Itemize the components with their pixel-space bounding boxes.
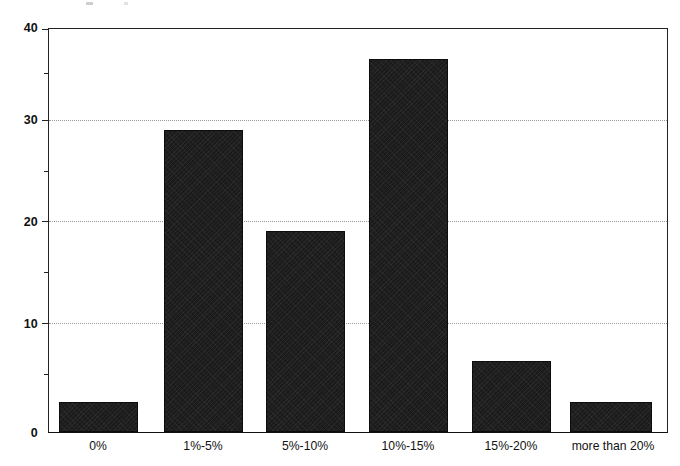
y-axis-tick-label: 0 — [0, 427, 38, 440]
bar-3 — [369, 59, 448, 432]
y-axis-tick-label: 10 — [0, 318, 38, 331]
x-axis-tick-label-1: 1%-5% — [183, 440, 222, 452]
y-tick-10 — [42, 323, 49, 324]
x-axis-tick-label-4: 15%-20% — [485, 440, 538, 452]
bar-5 — [570, 402, 652, 432]
scan-artifact-mark — [86, 2, 93, 5]
bars-layer — [49, 29, 667, 432]
bar-1 — [164, 130, 243, 432]
y-axis-tick-label: 20 — [0, 216, 38, 229]
bar-4 — [472, 361, 551, 432]
y-tick-40 — [42, 29, 49, 30]
plot-area — [48, 28, 668, 433]
bar-2 — [266, 231, 345, 433]
x-axis-tick-label-3: 10%-15% — [382, 440, 435, 452]
y-axis-tick-label: 30 — [0, 114, 38, 127]
x-axis-tick-label-0: 0% — [89, 440, 107, 452]
x-axis-tick-label-2: 5%-10% — [282, 440, 328, 452]
bar-0 — [59, 402, 138, 432]
x-axis-labels: 0% 1%-5% 5%-10% 10%-15% 15%-20% more tha… — [48, 440, 668, 460]
bar-chart: 40 30 20 10 0 0% 1%-5% 5%-10% — [0, 0, 680, 466]
y-tick-20 — [42, 221, 49, 222]
x-axis-tick-label-5: more than 20% — [572, 440, 655, 452]
y-tick-30 — [42, 120, 49, 121]
y-axis-tick-label: 40 — [0, 22, 38, 35]
scan-artifact-mark — [124, 2, 128, 5]
